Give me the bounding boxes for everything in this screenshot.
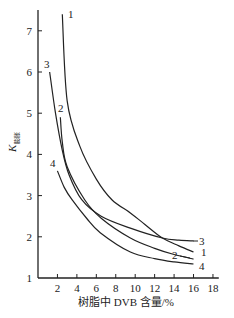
curve-1 <box>62 14 193 252</box>
x-tick-label: 4 <box>74 282 80 294</box>
x-tick-label: 14 <box>169 282 181 294</box>
y-tick-label: 4 <box>27 148 33 160</box>
y-axis-label: K 膨胀 <box>6 132 21 153</box>
curve-label-1: 1 <box>68 8 74 20</box>
curve-label-2: 2 <box>58 102 64 114</box>
curve-label-3: 3 <box>199 235 205 247</box>
x-tick-label: 2 <box>55 282 61 294</box>
y-tick-label: 5 <box>27 107 33 119</box>
x-tick-label: 10 <box>130 282 142 294</box>
x-axis-label: 树脂中 DVB 含量/% <box>78 295 174 308</box>
y-tick-label: 6 <box>27 66 33 78</box>
x-tick-label: 12 <box>149 282 160 294</box>
curve-3 <box>50 72 194 241</box>
axes: 123456724681012141618 <box>27 10 219 294</box>
y-tick-label: 7 <box>27 25 33 37</box>
x-tick-label: 8 <box>113 282 119 294</box>
y-tick-label: 3 <box>27 190 33 202</box>
curves <box>50 14 194 264</box>
x-tick-label: 18 <box>207 282 219 294</box>
y-axis-label-main: K <box>6 144 18 153</box>
curve-label-2: 2 <box>172 249 178 261</box>
y-axis-label-subscript: 膨胀 <box>13 132 21 144</box>
curve-label-4: 4 <box>199 260 205 272</box>
curve-label-3: 3 <box>44 58 50 70</box>
curve-2 <box>60 117 193 259</box>
x-tick-label: 16 <box>188 282 200 294</box>
curve-labels: 11223344 <box>44 8 207 272</box>
curve-label-1: 1 <box>201 246 207 258</box>
x-tick-label: 6 <box>94 282 100 294</box>
chart: 123456724681012141618 11223344 树脂中 DVB 含… <box>0 0 234 318</box>
y-tick-label: 1 <box>27 272 33 284</box>
y-tick-label: 2 <box>27 231 33 243</box>
curve-label-4: 4 <box>50 157 56 169</box>
